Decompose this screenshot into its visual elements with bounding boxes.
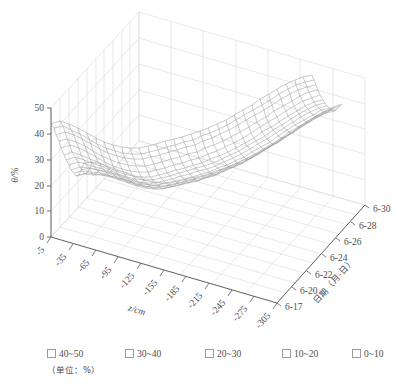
surface-chart: 0 10 20 30 40 50 θ/% -5 bbox=[0, 0, 399, 389]
legend-item-0-10[interactable]: 0~10 bbox=[352, 348, 383, 361]
legend-item-30-40[interactable]: 30~40 bbox=[125, 348, 161, 361]
depth-tick--185: -185 bbox=[162, 283, 181, 303]
legend-label-0-10: 0~10 bbox=[364, 349, 383, 359]
legend: 40~50 30~40 20~30 10~20 0~10 （单位：%） bbox=[0, 348, 399, 388]
legend-label-40-50: 40~50 bbox=[59, 349, 83, 359]
legend-label-20-30: 20~30 bbox=[217, 349, 241, 359]
legend-swatch-20-30 bbox=[205, 349, 214, 358]
date-axis-title: 日期（月-日） bbox=[311, 256, 357, 305]
legend-label-10-20: 10~20 bbox=[294, 349, 318, 359]
z-tick-40: 40 bbox=[35, 129, 45, 139]
date-tick-6-30: 6-30 bbox=[373, 204, 391, 214]
depth-tick--65: -65 bbox=[76, 257, 92, 273]
depth-tick--275: -275 bbox=[230, 303, 249, 323]
depth-tick--305: -305 bbox=[253, 310, 272, 330]
z-tick-30: 30 bbox=[35, 155, 45, 165]
surface-plot-svg: 0 10 20 30 40 50 θ/% -5 bbox=[0, 0, 399, 389]
legend-unit-note: （单位：%） bbox=[47, 363, 100, 375]
legend-swatch-30-40 bbox=[125, 349, 134, 358]
date-axis-ticks: 6-17 6-20 6-22 6-24 6-26 6-28 6-30 bbox=[277, 204, 391, 312]
date-tick-6-17: 6-17 bbox=[285, 302, 303, 312]
z-tick-10: 10 bbox=[35, 206, 45, 216]
legend-swatch-0-10 bbox=[352, 349, 361, 358]
depth-tick--215: -215 bbox=[185, 290, 204, 310]
legend-label-30-40: 30~40 bbox=[137, 349, 161, 359]
plot-box-grid bbox=[51, 12, 365, 303]
legend-swatch-40-50 bbox=[47, 349, 56, 358]
z-tick-50: 50 bbox=[35, 103, 45, 113]
date-tick-6-26: 6-26 bbox=[344, 237, 362, 247]
surface-mesh bbox=[51, 75, 342, 189]
legend-item-10-20[interactable]: 10~20 bbox=[282, 348, 318, 361]
depth-tick--125: -125 bbox=[117, 270, 136, 290]
date-tick-6-28: 6-28 bbox=[359, 221, 377, 231]
z-tick-20: 20 bbox=[35, 181, 45, 191]
depth-tick--5: -5 bbox=[34, 244, 47, 257]
z-axis-title: θ/% bbox=[10, 167, 20, 182]
depth-tick--35: -35 bbox=[53, 251, 69, 267]
depth-axis-title: z/cm bbox=[126, 303, 147, 318]
depth-tick--245: -245 bbox=[208, 297, 227, 317]
legend-item-40-50[interactable]: 40~50 bbox=[47, 348, 83, 361]
depth-tick--155: -155 bbox=[140, 277, 159, 297]
legend-item-20-30[interactable]: 20~30 bbox=[205, 348, 241, 361]
depth-tick--95: -95 bbox=[98, 264, 114, 280]
depth-axis-ticks: -5 -35 -65 -95 -125 -155 -185 -215 -245 … bbox=[34, 237, 277, 330]
z-axis-ticks: 0 10 20 30 40 50 bbox=[35, 103, 52, 242]
z-tick-0: 0 bbox=[39, 232, 44, 242]
legend-swatch-10-20 bbox=[282, 349, 291, 358]
